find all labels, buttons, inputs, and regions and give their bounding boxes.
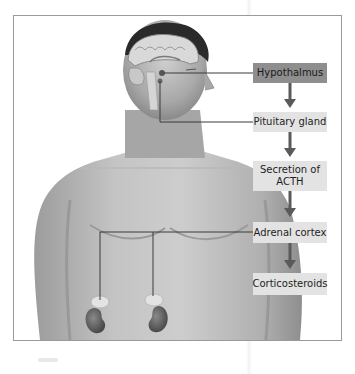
- adrenal-gland-right: [145, 294, 163, 306]
- flow-box-corticosteroids: Corticosteroids: [253, 273, 327, 295]
- head: [123, 20, 214, 120]
- flow-label: Secretion of ACTH: [259, 164, 321, 188]
- flow-box-secretion-of-acth: Secretion of ACTH: [253, 161, 327, 191]
- page-mark: [38, 358, 58, 362]
- flow-label: Adrenal cortex: [253, 227, 326, 239]
- flow-box-pituitary-gland: Pituitary gland: [253, 112, 327, 132]
- flow-box-adrenal-cortex: Adrenal cortex: [253, 222, 327, 243]
- flow-label: Hypothalmus: [257, 67, 323, 79]
- flow-label: Corticosteroids: [252, 278, 327, 290]
- flow-box-hypothalmus: Hypothalmus: [253, 63, 327, 83]
- flow-label: Pituitary gland: [254, 116, 327, 128]
